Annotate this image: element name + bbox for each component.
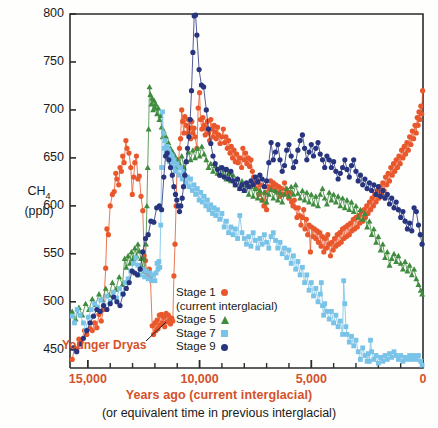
data-point	[179, 107, 184, 112]
data-point	[322, 301, 327, 306]
data-point	[402, 259, 408, 264]
data-point	[157, 265, 162, 270]
data-point	[177, 209, 182, 214]
data-point	[113, 171, 118, 176]
data-point	[380, 241, 386, 246]
data-point	[84, 328, 89, 333]
data-point	[313, 286, 318, 291]
data-point	[282, 246, 287, 251]
data-point	[237, 213, 242, 218]
legend-label-stage-7: Stage 7	[176, 327, 216, 341]
x-axis-label-primary: Years ago (current interglacial)	[0, 388, 438, 402]
data-point	[416, 223, 421, 228]
data-point	[146, 126, 152, 131]
data-point	[218, 141, 223, 146]
data-point	[317, 191, 323, 196]
data-point	[271, 230, 276, 235]
data-point	[75, 307, 80, 312]
data-point	[298, 273, 303, 278]
data-point	[171, 184, 176, 189]
data-point	[295, 148, 300, 153]
data-point	[224, 167, 229, 172]
legend: Stage 1 (current interglacial) Stage 5 S…	[176, 286, 278, 354]
data-point	[135, 272, 140, 277]
data-point	[349, 163, 354, 168]
data-point	[408, 142, 413, 147]
data-point	[414, 209, 419, 214]
data-point	[418, 104, 423, 109]
data-point	[344, 324, 349, 329]
data-point	[271, 157, 276, 162]
data-point	[197, 67, 202, 72]
data-point	[249, 244, 254, 249]
data-point	[291, 253, 296, 258]
data-point	[166, 157, 171, 162]
data-point	[244, 242, 249, 247]
data-point	[180, 196, 185, 201]
data-point	[220, 211, 225, 216]
data-point	[316, 299, 321, 304]
legend-item-stage-5[interactable]: Stage 5	[176, 313, 278, 327]
data-point	[289, 261, 294, 266]
data-point	[389, 196, 394, 201]
data-point	[347, 175, 352, 180]
data-point	[273, 238, 278, 243]
data-point	[326, 189, 332, 194]
data-point	[280, 169, 285, 174]
data-point	[414, 130, 419, 135]
data-point	[311, 153, 316, 158]
data-point	[189, 88, 194, 93]
data-point	[297, 195, 303, 200]
data-point	[147, 84, 153, 89]
data-point	[391, 251, 397, 256]
data-point	[153, 278, 158, 283]
data-point	[362, 176, 367, 181]
data-point	[111, 290, 116, 295]
data-point	[126, 151, 131, 156]
data-point	[358, 173, 363, 178]
data-point	[320, 186, 326, 191]
data-point	[92, 320, 97, 325]
data-point	[376, 184, 381, 189]
data-point	[146, 232, 151, 237]
data-point	[302, 226, 307, 231]
data-point	[354, 338, 359, 343]
data-point	[407, 221, 412, 226]
data-point	[184, 159, 189, 164]
data-point	[127, 280, 132, 285]
data-point	[163, 138, 168, 143]
data-point	[305, 232, 310, 237]
data-point	[369, 232, 375, 237]
data-point	[338, 171, 343, 176]
data-point	[400, 266, 406, 271]
data-point	[301, 207, 306, 212]
data-point	[116, 274, 122, 279]
data-point	[289, 153, 294, 158]
data-point	[398, 215, 403, 220]
data-point	[124, 286, 129, 291]
data-point	[398, 353, 403, 358]
data-point	[298, 138, 303, 143]
data-point	[368, 338, 373, 343]
data-point	[417, 117, 422, 122]
data-point	[319, 244, 324, 249]
data-point	[105, 294, 110, 299]
data-point	[135, 241, 141, 246]
data-point	[120, 153, 125, 158]
data-point	[228, 169, 233, 174]
data-point	[329, 309, 334, 314]
data-point	[258, 236, 263, 241]
data-point	[293, 182, 299, 187]
data-point	[338, 319, 343, 324]
data-point	[375, 234, 381, 239]
data-point	[420, 88, 425, 93]
data-point	[385, 357, 390, 362]
legend-item-stage-1[interactable]: Stage 1	[176, 286, 278, 300]
legend-item-stage-7[interactable]: Stage 7	[176, 327, 278, 341]
data-point	[86, 315, 91, 320]
data-point	[296, 205, 301, 210]
legend-item-stage-9[interactable]: Stage 9	[176, 340, 278, 354]
data-point	[106, 232, 111, 237]
data-point	[351, 344, 356, 349]
data-point	[264, 207, 269, 212]
